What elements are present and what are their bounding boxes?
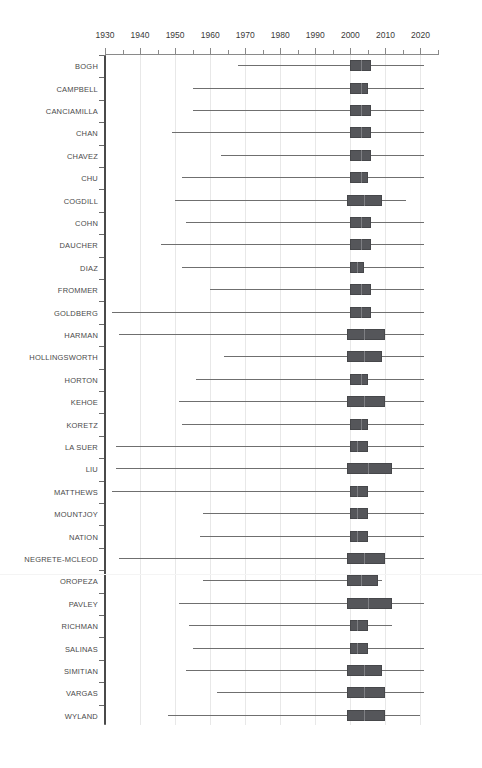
- median-line: [368, 463, 369, 474]
- median-line: [357, 262, 358, 273]
- x-axis-tick-label: 1940: [131, 30, 150, 40]
- box-plot-row: [105, 123, 437, 143]
- y-axis-category-label: PAVLEY: [69, 599, 98, 608]
- box: [347, 710, 386, 721]
- median-line: [361, 575, 362, 586]
- y-tick: [99, 593, 104, 594]
- box-plot-row: [105, 258, 437, 278]
- box: [350, 486, 368, 497]
- y-axis-category-label: FROMMER: [58, 286, 98, 295]
- box-plot-row: [105, 146, 437, 166]
- y-axis-category-label: NATION: [69, 532, 98, 541]
- x-axis-tick-label: 2000: [341, 30, 360, 40]
- box: [347, 553, 386, 564]
- whisker-line: [179, 401, 424, 402]
- box-plot-row: [105, 325, 437, 345]
- median-line: [357, 508, 358, 519]
- median-line: [361, 150, 362, 161]
- box-plot-row: [105, 482, 437, 502]
- box-plot-row: [105, 347, 437, 367]
- y-axis-category-label: LA SUER: [65, 443, 98, 452]
- y-tick: [99, 145, 104, 146]
- box: [350, 441, 368, 452]
- median-line: [361, 127, 362, 138]
- whisker-line: [221, 155, 424, 156]
- plot-area: [105, 55, 437, 725]
- x-axis-tick-label: 1970: [236, 30, 255, 40]
- whisker-line: [182, 424, 424, 425]
- y-axis-category-label: KEHOE: [71, 398, 98, 407]
- box: [347, 598, 393, 609]
- median-line: [361, 217, 362, 228]
- median-line: [357, 620, 358, 631]
- median-line: [364, 687, 365, 698]
- y-axis-category-label: SIMITIAN: [64, 667, 98, 676]
- x-tick-minor: [333, 50, 334, 55]
- box-plot-row: [105, 683, 437, 703]
- y-axis-category-label: CHAN: [76, 129, 98, 138]
- median-line: [364, 396, 365, 407]
- y-tick: [99, 503, 104, 504]
- box-plot-row: [105, 303, 437, 323]
- y-axis-category-label: CANCIAMILLA: [46, 107, 98, 116]
- median-line: [364, 329, 365, 340]
- box: [350, 643, 368, 654]
- y-tick: [99, 301, 104, 302]
- box-plot-row: [105, 616, 437, 636]
- whisker-line: [238, 65, 424, 66]
- x-tick-major: [175, 48, 176, 55]
- x-tick-minor: [438, 50, 439, 55]
- box-plot-row: [105, 415, 437, 435]
- median-line: [361, 419, 362, 430]
- box: [350, 620, 368, 631]
- y-axis-category-label: CAMPBELL: [56, 84, 98, 93]
- x-tick-major: [385, 48, 386, 55]
- box-plot-row: [105, 56, 437, 76]
- y-tick: [99, 413, 104, 414]
- y-axis-line: [104, 55, 106, 725]
- median-line: [361, 60, 362, 71]
- y-tick: [99, 212, 104, 213]
- median-line: [361, 239, 362, 250]
- y-axis-category-label: HOLLINGSWORTH: [29, 353, 98, 362]
- y-tick: [99, 682, 104, 683]
- y-axis-category-label: GOLDBERG: [54, 308, 98, 317]
- y-tick: [99, 615, 104, 616]
- x-tick-major: [350, 48, 351, 55]
- y-axis-category-label: KORETZ: [66, 420, 98, 429]
- x-tick-minor: [263, 50, 264, 55]
- y-tick: [99, 660, 104, 661]
- median-line: [357, 441, 358, 452]
- box: [350, 83, 368, 94]
- box: [347, 687, 386, 698]
- y-tick: [99, 548, 104, 549]
- box-plot-row: [105, 213, 437, 233]
- box-plot-row: [105, 370, 437, 390]
- y-tick: [99, 525, 104, 526]
- box-plot-row: [105, 79, 437, 99]
- y-axis-category-label: LIU: [86, 465, 98, 474]
- median-line: [361, 284, 362, 295]
- x-tick-minor: [368, 50, 369, 55]
- x-axis-tick-label: 2020: [411, 30, 430, 40]
- y-axis-category-label: HORTON: [65, 375, 98, 384]
- x-axis-tick-label: 2010: [376, 30, 395, 40]
- x-axis-tick-label: 1990: [306, 30, 325, 40]
- y-tick: [99, 481, 104, 482]
- box-plot-row: [105, 235, 437, 255]
- whisker-line: [112, 312, 424, 313]
- y-tick: [99, 458, 104, 459]
- y-axis-category-label: SALINAS: [65, 644, 98, 653]
- box: [350, 374, 368, 385]
- box: [347, 396, 386, 407]
- y-tick: [99, 369, 104, 370]
- x-tick-major: [105, 48, 106, 55]
- y-tick: [99, 234, 104, 235]
- x-tick-major: [315, 48, 316, 55]
- box-plot-row: [105, 280, 437, 300]
- box: [350, 508, 368, 519]
- x-axis-tick-label: 1960: [201, 30, 220, 40]
- box: [350, 419, 368, 430]
- box: [350, 172, 368, 183]
- box-plot-row: [105, 706, 437, 726]
